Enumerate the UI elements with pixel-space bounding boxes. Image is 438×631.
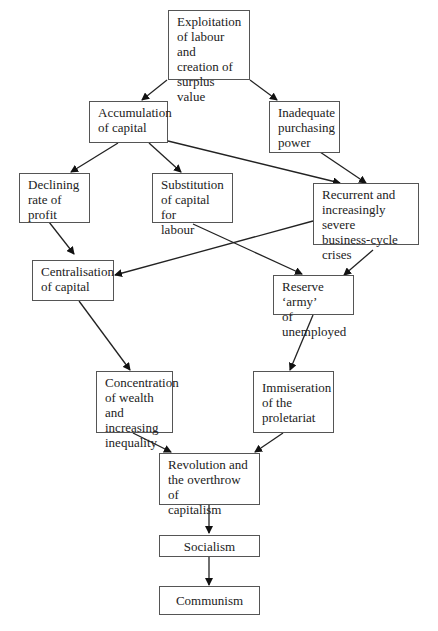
node-label: Reserve ‘army’ of unemployed <box>282 279 346 339</box>
arrow-centralisation-concentration <box>79 301 130 370</box>
node-communism: Communism <box>159 586 260 615</box>
node-concentration: Concentration of wealth and increasing i… <box>96 371 173 433</box>
node-purchasing: Inadequate purchasing power <box>269 101 340 153</box>
node-label: Socialism <box>184 539 235 554</box>
arrow-exploitation-accumulation <box>142 80 167 100</box>
arrow-declining-centralisation <box>49 222 74 254</box>
node-immiseration: Immiseration of the proletariat <box>253 371 334 433</box>
arrow-accumulation-substitution <box>149 143 181 172</box>
node-centralisation: Centralisation of capital <box>32 260 114 301</box>
arrow-purchasing-recurrent <box>320 152 366 183</box>
node-label: Inadequate purchasing power <box>278 105 335 150</box>
node-label: Accumulation of capital <box>98 105 172 135</box>
node-substitution: Substitution of capital for labour <box>152 173 233 223</box>
arrow-accumulation-declining <box>71 143 118 172</box>
node-accumulation: Accumulation of capital <box>89 101 168 143</box>
node-label: Communism <box>176 593 243 608</box>
node-declining: Declining rate of profit <box>19 173 90 223</box>
node-reserve: Reserve ‘army’ of unemployed <box>273 275 354 315</box>
arrow-immiseration-revolution <box>255 433 283 452</box>
node-label: Centralisation of capital <box>41 264 114 294</box>
node-socialism: Socialism <box>159 535 260 557</box>
node-exploitation: Exploitation of labour and creation of s… <box>168 10 250 80</box>
arrow-exploitation-purchasing <box>250 80 277 100</box>
node-recurrent: Recurrent and increasingly severe busine… <box>313 183 419 245</box>
arrow-recurrent-centralisation <box>115 221 313 275</box>
node-revolution: Revolution and the overthrow of capitali… <box>159 453 260 505</box>
flowchart-canvas: Exploitation of labour and creation of s… <box>0 0 438 631</box>
node-label: Declining rate of profit <box>28 177 79 222</box>
node-label: Immiseration of the proletariat <box>262 380 331 425</box>
